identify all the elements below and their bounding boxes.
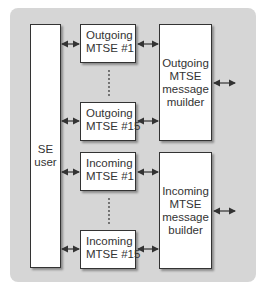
- connector-arrows: [0, 0, 266, 300]
- ellipsis-dots: [108, 70, 110, 224]
